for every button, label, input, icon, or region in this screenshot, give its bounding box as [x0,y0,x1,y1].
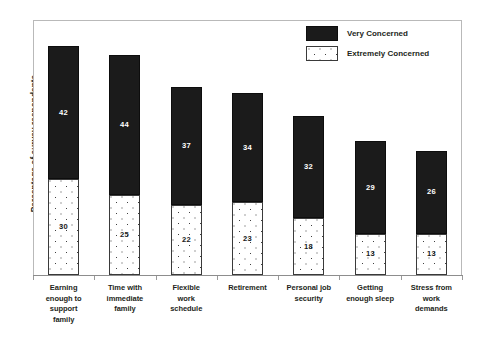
bar-5[interactable]: 3218 [293,116,324,275]
black-fill-swatch-icon [306,26,338,41]
x-axis-tick [33,276,34,280]
bar-2[interactable]: 4425 [109,55,140,275]
bar-segment-extremely-concerned[interactable]: 18 [293,218,324,275]
bar-segment-very-concerned[interactable]: 34 [232,93,263,201]
x-axis-label-3: Flexibleworkschedule [156,283,217,315]
dotted-fill-swatch-icon [306,46,338,61]
x-axis-line [33,275,463,276]
bar-value-label: 34 [243,144,252,152]
bar-value-label: 32 [304,163,313,171]
bar-segment-very-concerned[interactable]: 29 [355,141,386,233]
x-axis-tick [278,276,279,280]
x-axis-tick [401,276,402,280]
x-axis-label-2: Time withimmediatefamily [94,283,155,315]
bar-1[interactable]: 4230 [48,46,79,276]
x-axis-label-7: Stress fromworkdemands [401,283,462,315]
legend-item-very-concerned: Very Concerned [306,24,429,42]
x-axis-tick [462,276,463,280]
stacked-bar-chart-figure: Percentage of survey respondents 4230442… [0,0,482,344]
x-axis-tick [339,276,340,280]
bar-value-label: 29 [366,184,375,192]
legend-item-extremely-concerned: Extremely Concerned [306,44,429,62]
bar-segment-very-concerned[interactable]: 32 [293,116,324,218]
x-axis-tick [94,276,95,280]
bar-segment-extremely-concerned[interactable]: 30 [48,179,79,275]
bar-segment-extremely-concerned[interactable]: 25 [109,195,140,275]
bar-value-label: 22 [182,236,191,244]
bar-segment-extremely-concerned[interactable]: 13 [355,234,386,275]
bar-value-label: 23 [243,235,252,243]
bar-6[interactable]: 2913 [355,141,386,275]
bar-segment-very-concerned[interactable]: 42 [48,46,79,180]
bar-value-label: 44 [120,121,129,129]
bar-segment-very-concerned[interactable]: 37 [171,87,202,205]
x-axis-label-4: Retirement [217,283,278,294]
bar-7[interactable]: 2613 [416,151,447,275]
bar-segment-extremely-concerned[interactable]: 22 [171,205,202,275]
bar-value-label: 30 [59,223,68,231]
bar-4[interactable]: 3423 [232,93,263,275]
x-axis-label-6: Gettingenough sleep [339,283,400,304]
bar-value-label: 37 [182,142,191,150]
chart-legend: Very Concerned Extremely Concerned [306,24,429,64]
bar-value-label: 25 [120,231,129,239]
bar-value-label: 42 [59,109,68,117]
bar-segment-extremely-concerned[interactable]: 23 [232,202,263,275]
x-axis-tick [217,276,218,280]
x-axis-label-5: Personal jobsecurity [278,283,339,304]
x-axis-tick [156,276,157,280]
legend-label-very-concerned: Very Concerned [347,29,408,38]
bar-3[interactable]: 3722 [171,87,202,275]
bar-value-label: 18 [304,243,313,251]
legend-label-extremely-concerned: Extremely Concerned [347,49,429,58]
bar-value-label: 13 [366,250,375,258]
bar-segment-extremely-concerned[interactable]: 13 [416,234,447,275]
x-axis-label-1: Earningenough tosupportfamily [33,283,94,325]
bar-value-label: 26 [427,188,436,196]
bar-value-label: 13 [427,250,436,258]
bar-segment-very-concerned[interactable]: 26 [416,151,447,234]
bar-segment-very-concerned[interactable]: 44 [109,55,140,195]
